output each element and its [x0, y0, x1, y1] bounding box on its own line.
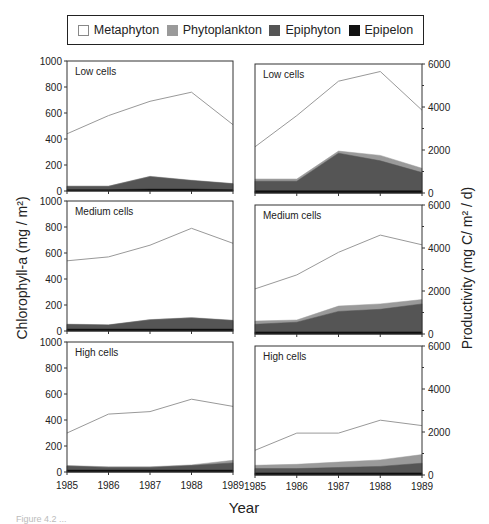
panel-6-right-xtick-label: 1987	[327, 481, 350, 492]
panel-3-left-ytick-label: 800	[45, 222, 62, 233]
panel-3-left-ytick-label: 400	[45, 274, 62, 285]
panel-3-left-ytick-label: 200	[45, 300, 62, 311]
panel-5-left-xtick-label: 1988	[180, 480, 203, 491]
panel-6-right-ytick-label: 4000	[428, 384, 451, 395]
panel-3-left-ytick-label: 600	[45, 248, 62, 259]
panel-4-right-ytick-label: 0	[428, 329, 434, 340]
panel-5-left-ytick-label: 600	[45, 389, 62, 400]
panel-4-right-ytick-label: 6000	[428, 200, 451, 211]
y-axis-label-right: Productivity (mg C/ m² / d)	[459, 187, 475, 350]
panel-6-right-ytick-label: 2000	[428, 427, 451, 438]
panel-2-right-title: Low cells	[263, 69, 304, 80]
panel-1-left-ytick-label: 400	[45, 134, 62, 145]
panel-1-left-ytick-label: 200	[45, 160, 62, 171]
panel-2-right-ytick-label: 2000	[428, 145, 451, 156]
panel-6-right-title: High cells	[263, 351, 306, 362]
panel-1-left-title: Low cells	[75, 66, 116, 77]
panel-5-left-ytick-label: 800	[45, 363, 62, 374]
figure: Low cells02004006008001000Low cells02000…	[0, 0, 489, 524]
panel-5-left-ytick-label: 200	[45, 441, 62, 452]
panel-5-left-xtick-label: 1989	[222, 480, 245, 491]
panel-5-left-xtick-label: 1985	[56, 480, 79, 491]
panel-5-left-xtick-label: 1986	[97, 480, 120, 491]
panel-1-left-ytick-label: 600	[45, 108, 62, 119]
panel-5-left-ytick-label: 0	[56, 467, 62, 478]
panel-2-right-ytick-label: 6000	[428, 59, 451, 70]
figure-caption: Figure 4.2 ...	[16, 514, 67, 524]
panel-4-right-ytick-label: 2000	[428, 286, 451, 297]
panel-2-right-ytick-label: 4000	[428, 102, 451, 113]
panel-6-right-ytick-label: 0	[428, 470, 434, 481]
panel-3-left-ytick-label: 0	[56, 326, 62, 337]
panel-4-right-ytick-label: 4000	[428, 243, 451, 254]
panel-5-left-ytick-label: 400	[45, 415, 62, 426]
panel-4-right-title: Medium cells	[263, 210, 321, 221]
y-axis-label-left: Chlorophyll-a (mg / m²)	[14, 196, 30, 339]
panel-5-left-area-metaphyton	[67, 399, 233, 472]
panel-5-left-title: High cells	[75, 347, 118, 358]
x-axis-label: Year	[229, 499, 259, 516]
panel-2-right-ytick-label: 0	[428, 188, 434, 199]
panel-5-left-ytick-label: 1000	[40, 337, 63, 348]
panel-5-left-xtick-label: 1987	[139, 480, 162, 491]
panel-6-right-xtick-label: 1989	[411, 481, 434, 492]
panel-1-left-ytick-label: 1000	[40, 56, 63, 67]
panel-6-right-xtick-label: 1988	[369, 481, 392, 492]
panel-6-right-xtick-label: 1985	[244, 481, 267, 492]
panel-3-left-title: Medium cells	[75, 206, 133, 217]
panel-6-right-xtick-label: 1986	[286, 481, 309, 492]
panel-3-left-ytick-label: 1000	[40, 196, 63, 207]
panel-3-left-area-metaphyton	[67, 228, 233, 331]
panel-6-right-ytick-label: 6000	[428, 341, 451, 352]
panel-1-left-ytick-label: 800	[45, 82, 62, 93]
